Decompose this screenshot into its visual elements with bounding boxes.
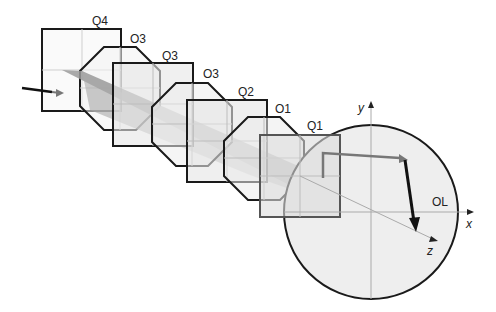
label-ol: OL xyxy=(432,195,448,209)
label-y-axis: y xyxy=(357,101,365,115)
label-o3-1: O3 xyxy=(130,32,146,46)
label-q3: Q3 xyxy=(162,49,178,63)
label-q4: Q4 xyxy=(92,14,108,28)
label-o3-2: O3 xyxy=(203,67,219,81)
x-axis-arrowhead xyxy=(467,209,474,215)
label-q1: Q1 xyxy=(307,119,323,133)
label-o1: O1 xyxy=(275,102,291,116)
beamline-diagram: Q4 O3 Q3 O3 Q2 O1 Q1 OL y x z xyxy=(0,0,496,312)
y-axis-arrowhead xyxy=(368,101,374,108)
label-x-axis: x xyxy=(465,217,473,231)
label-q2: Q2 xyxy=(238,85,254,99)
label-z-axis: z xyxy=(426,244,433,258)
